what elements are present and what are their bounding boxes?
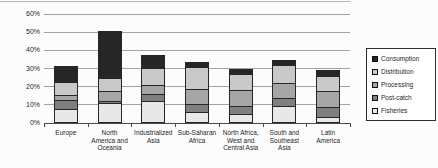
- bar-latin-america: [306, 14, 350, 123]
- legend-item-distribution: Distribution: [372, 68, 433, 75]
- legend-swatch-icon: [372, 95, 378, 101]
- y-axis-tick-label: 20%: [12, 83, 40, 91]
- bar-sub-saharan-africa: [175, 14, 219, 123]
- bar-segment-distribution: [229, 74, 253, 91]
- x-axis-tick: [219, 123, 220, 127]
- plot-area: [44, 14, 350, 123]
- bar-segment-consumption: [229, 69, 253, 75]
- bar-industrialized-asia: [131, 14, 175, 123]
- bar-segment-post-catch: [272, 98, 296, 106]
- legend-label: Processing: [381, 81, 413, 88]
- bar-segment-consumption: [141, 55, 165, 69]
- bar-north-america-and-oceania: [88, 14, 132, 123]
- legend-item-post-catch: Post-catch: [372, 94, 433, 101]
- bar-europe: [44, 14, 88, 123]
- y-axis-tick-label: 30%: [12, 65, 40, 73]
- y-axis-tick-label: 50%: [12, 28, 40, 36]
- bar-segment-consumption: [272, 60, 296, 66]
- x-axis-tick: [44, 123, 45, 127]
- stacked-bar-chart: EuropeNorthAmerica andOceaniaIndustriali…: [0, 0, 438, 168]
- bar-segment-consumption: [98, 31, 122, 78]
- bar-north-africa-west-and-central-asia: [219, 14, 263, 123]
- legend-label: Distribution: [381, 68, 414, 75]
- bar-segment-post-catch: [185, 104, 209, 113]
- bar-segment-distribution: [272, 65, 296, 84]
- y-axis-tick-label: 60%: [12, 10, 40, 18]
- bar-segment-consumption: [54, 66, 78, 83]
- bar-segment-processing: [185, 89, 209, 105]
- legend-label: Post-catch: [381, 94, 412, 101]
- bar-segment-processing: [141, 85, 165, 95]
- bar-segment-consumption: [185, 62, 209, 68]
- x-axis-tick: [306, 123, 307, 127]
- y-axis-tick-label: 40%: [12, 46, 40, 54]
- legend-swatch-icon: [372, 69, 378, 75]
- bar-segment-consumption: [316, 70, 340, 76]
- x-axis-label-line: Asia: [255, 144, 315, 152]
- legend-item-processing: Processing: [372, 81, 433, 88]
- bar-segment-fisheries: [98, 103, 122, 123]
- x-axis-tick: [131, 123, 132, 127]
- bar-segment-processing: [316, 91, 340, 108]
- legend-label: Fisheries: [381, 107, 407, 114]
- bar-segment-distribution: [54, 82, 78, 96]
- bar-segment-processing: [229, 90, 253, 106]
- x-axis-label-line: America: [298, 137, 358, 145]
- x-axis-tick: [350, 123, 351, 127]
- legend-swatch-icon: [372, 108, 378, 114]
- legend-swatch-icon: [372, 56, 378, 62]
- bar-segment-distribution: [141, 68, 165, 86]
- bar-segment-fisheries: [54, 109, 78, 123]
- x-axis-label-line: Oceania: [80, 144, 140, 152]
- bar-segment-post-catch: [141, 94, 165, 102]
- x-axis-label: LatinAmerica: [298, 129, 358, 144]
- bar-segment-distribution: [98, 78, 122, 93]
- bar-segment-fisheries: [141, 101, 165, 123]
- bar-segment-fisheries: [272, 106, 296, 123]
- x-axis-label-line: Latin: [298, 129, 358, 137]
- legend-item-fisheries: Fisheries: [372, 107, 433, 114]
- legend-item-consumption: Consumption: [372, 55, 433, 62]
- legend: ConsumptionDistributionProcessingPost-ca…: [366, 48, 436, 121]
- bar-segment-distribution: [316, 76, 340, 92]
- legend-swatch-icon: [372, 82, 378, 88]
- bar-segment-post-catch: [316, 107, 340, 118]
- x-axis-line: [44, 123, 350, 124]
- bar-segment-distribution: [185, 67, 209, 91]
- x-axis-tick: [175, 123, 176, 127]
- bar-segment-processing: [272, 83, 296, 99]
- bar-segment-processing: [98, 91, 122, 102]
- y-axis-tick-label: 0%: [12, 119, 40, 127]
- bar-south-and-southeast-asia: [263, 14, 307, 123]
- x-axis-tick: [263, 123, 264, 127]
- legend-label: Consumption: [381, 55, 419, 62]
- bar-segment-post-catch: [229, 106, 253, 115]
- x-axis-tick: [88, 123, 89, 127]
- top-divider-line: [0, 1, 350, 2]
- bar-segment-fisheries: [185, 112, 209, 123]
- bar-segment-post-catch: [54, 100, 78, 110]
- y-axis-tick-label: 10%: [12, 101, 40, 109]
